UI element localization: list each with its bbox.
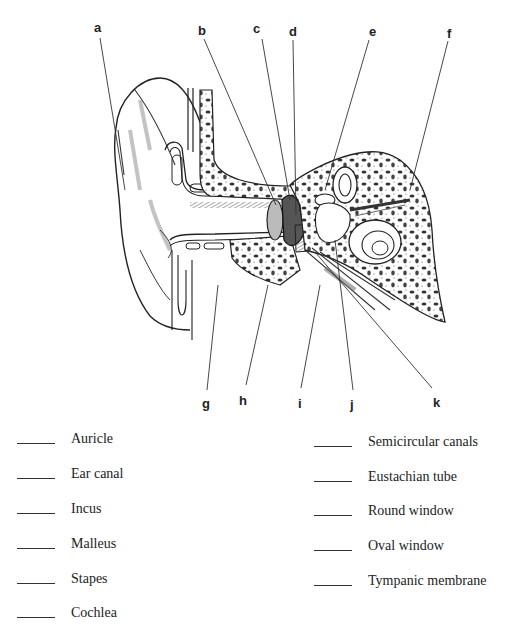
answer-blank[interactable]: [314, 550, 352, 551]
term-eustachian-tube: Eustachian tube: [314, 469, 457, 485]
label-i: i: [298, 396, 302, 411]
answer-blank[interactable]: [17, 617, 55, 618]
answer-blank[interactable]: [314, 515, 352, 516]
term-tympanic-membrane: Tympanic membrane: [314, 573, 486, 589]
term-semicircular-canals: Semicircular canals: [314, 434, 478, 450]
term-oval-window: Oval window: [314, 538, 444, 554]
label-j: j: [350, 397, 354, 412]
term-auricle: Auricle: [17, 431, 113, 447]
answer-blank[interactable]: [17, 443, 55, 444]
label-a: a: [94, 20, 101, 35]
term-round-window: Round window: [314, 503, 454, 519]
label-b: b: [198, 23, 206, 38]
label-c: c: [253, 21, 260, 36]
ear-diagram: a b c d e f g h i j k: [0, 0, 515, 420]
term-incus: Incus: [17, 501, 101, 517]
label-f: f: [447, 26, 451, 41]
label-k: k: [433, 395, 440, 410]
term-stapes: Stapes: [17, 571, 108, 587]
answer-blank[interactable]: [17, 513, 55, 514]
term-malleus: Malleus: [17, 536, 116, 552]
answer-blank[interactable]: [314, 481, 352, 482]
label-d: d: [289, 24, 297, 39]
answer-blank[interactable]: [17, 478, 55, 479]
label-e: e: [369, 24, 376, 39]
label-h: h: [239, 393, 247, 408]
answer-blank[interactable]: [17, 583, 55, 584]
answer-blank[interactable]: [314, 585, 352, 586]
ear-illustration: [0, 0, 515, 420]
answer-blank[interactable]: [17, 548, 55, 549]
term-cochlea: Cochlea: [17, 605, 117, 621]
label-g: g: [202, 396, 210, 411]
answer-blank[interactable]: [314, 446, 352, 447]
term-ear-canal: Ear canal: [17, 466, 123, 482]
